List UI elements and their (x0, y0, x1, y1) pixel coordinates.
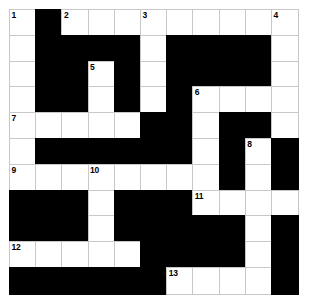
crossword-puzzle: 12345678910111213 (0, 0, 317, 305)
grid-cell-open[interactable] (89, 191, 115, 217)
grid-cell-open[interactable] (246, 268, 272, 294)
grid-cell-open[interactable] (193, 165, 219, 191)
clue-number: 8 (247, 139, 252, 149)
grid-cell-block (167, 216, 193, 242)
grid-cell-block (36, 87, 62, 113)
grid-cell-block (141, 268, 167, 294)
grid-cell-block (36, 139, 62, 165)
grid-cell-block (167, 36, 193, 62)
grid-cell-open[interactable] (167, 165, 193, 191)
grid-cell-open[interactable] (89, 87, 115, 113)
clue-number: 2 (64, 10, 69, 20)
grid-cell-block (193, 242, 219, 268)
grid-cell-open[interactable] (220, 87, 246, 113)
grid-cell-block (167, 113, 193, 139)
grid-cell-open[interactable] (10, 87, 36, 113)
grid-cell-open[interactable] (220, 10, 246, 36)
clue-number: 3 (142, 10, 147, 20)
grid-cell-open[interactable]: 13 (167, 268, 193, 294)
grid-cell-open[interactable]: 4 (272, 10, 298, 36)
grid-cell-block (89, 268, 115, 294)
grid-cell-open[interactable] (272, 191, 298, 217)
grid-cell-open[interactable]: 5 (89, 62, 115, 88)
grid-cell-open[interactable] (272, 87, 298, 113)
grid-cell-open[interactable] (193, 139, 219, 165)
grid-cell-open[interactable] (115, 165, 141, 191)
grid-cell-open[interactable] (36, 113, 62, 139)
grid-cell-block (36, 10, 62, 36)
grid-cell-block (141, 216, 167, 242)
grid-cell-open[interactable]: 1 (10, 10, 36, 36)
grid-cell-open[interactable] (246, 191, 272, 217)
grid-cell-open[interactable] (246, 165, 272, 191)
grid-cell-open[interactable] (89, 242, 115, 268)
grid-cell-open[interactable] (246, 87, 272, 113)
grid-cell-open[interactable] (272, 113, 298, 139)
grid-cell-open[interactable] (193, 113, 219, 139)
grid-cell-open[interactable]: 8 (246, 139, 272, 165)
grid-cell-open[interactable] (141, 62, 167, 88)
grid-cell-open[interactable] (62, 242, 88, 268)
grid-cell-open[interactable]: 3 (141, 10, 167, 36)
grid-cell-open[interactable] (141, 87, 167, 113)
grid-cell-block (10, 191, 36, 217)
grid-cell-block (220, 139, 246, 165)
crossword-grid[interactable]: 12345678910111213 (9, 9, 299, 295)
grid-cell-open[interactable] (62, 165, 88, 191)
grid-cell-open[interactable] (10, 62, 36, 88)
grid-cell-block (220, 113, 246, 139)
grid-cell-open[interactable] (36, 242, 62, 268)
grid-cell-open[interactable]: 11 (193, 191, 219, 217)
grid-cell-open[interactable] (246, 216, 272, 242)
grid-cell-block (115, 62, 141, 88)
grid-cell-open[interactable] (141, 36, 167, 62)
grid-cell-block (272, 242, 298, 268)
grid-cell-open[interactable] (89, 113, 115, 139)
grid-cell-block (62, 191, 88, 217)
grid-cell-open[interactable] (246, 242, 272, 268)
grid-cell-block (167, 242, 193, 268)
grid-cell-block (62, 268, 88, 294)
grid-cell-open[interactable] (193, 268, 219, 294)
grid-cell-open[interactable]: 9 (10, 165, 36, 191)
grid-cell-open[interactable] (115, 10, 141, 36)
grid-cell-block (246, 36, 272, 62)
grid-cell-open[interactable] (167, 10, 193, 36)
grid-cell-open[interactable] (36, 165, 62, 191)
grid-cell-open[interactable] (246, 10, 272, 36)
grid-cell-open[interactable] (220, 191, 246, 217)
grid-cell-block (193, 36, 219, 62)
grid-cell-block (246, 62, 272, 88)
grid-cell-open[interactable] (89, 10, 115, 36)
grid-cell-open[interactable] (272, 36, 298, 62)
grid-cell-open[interactable] (141, 165, 167, 191)
grid-cell-block (272, 165, 298, 191)
grid-cell-open[interactable]: 12 (10, 242, 36, 268)
grid-cell-block (89, 139, 115, 165)
grid-cell-open[interactable]: 7 (10, 113, 36, 139)
grid-cell-block (167, 139, 193, 165)
clue-number: 6 (195, 87, 200, 97)
clue-number: 12 (12, 242, 21, 252)
grid-cell-open[interactable] (193, 10, 219, 36)
grid-cell-open[interactable]: 6 (193, 87, 219, 113)
clue-number: 13 (169, 268, 178, 278)
grid-cell-block (115, 268, 141, 294)
grid-cell-open[interactable] (89, 216, 115, 242)
grid-cell-block (167, 62, 193, 88)
grid-cell-block (272, 216, 298, 242)
grid-cell-block (193, 216, 219, 242)
grid-cell-open[interactable]: 2 (62, 10, 88, 36)
grid-cell-open[interactable] (220, 268, 246, 294)
grid-cell-block (115, 191, 141, 217)
grid-cell-open[interactable] (115, 242, 141, 268)
grid-cell-open[interactable] (10, 36, 36, 62)
grid-cell-open[interactable] (115, 113, 141, 139)
grid-cell-open[interactable] (272, 62, 298, 88)
grid-cell-open[interactable] (62, 113, 88, 139)
grid-cell-block (115, 36, 141, 62)
grid-cell-open[interactable] (10, 139, 36, 165)
grid-cell-block (36, 36, 62, 62)
grid-cell-open[interactable]: 10 (89, 165, 115, 191)
grid-cell-block (220, 242, 246, 268)
